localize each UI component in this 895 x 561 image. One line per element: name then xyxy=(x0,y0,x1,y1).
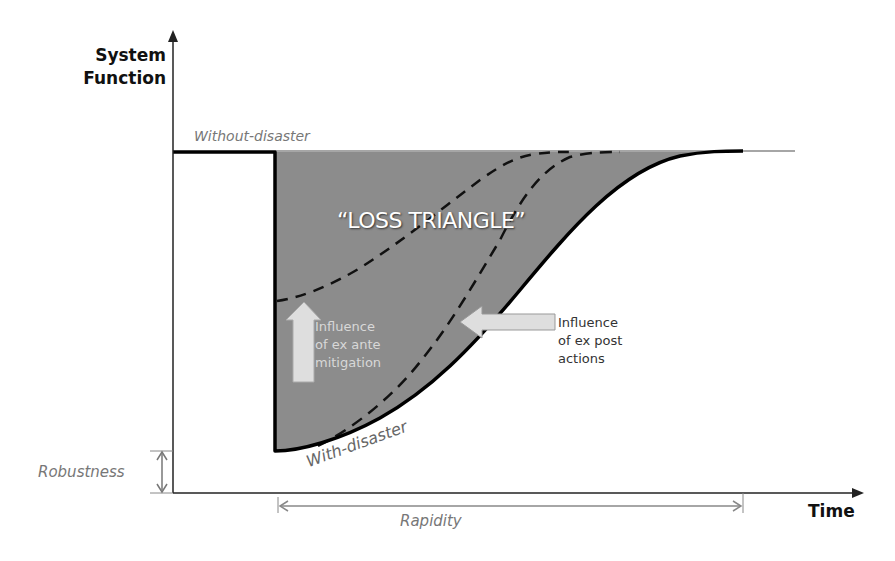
ex-ante-label: Influence of ex ante mitigation xyxy=(315,318,381,372)
ex-ante-label-line1: Influence xyxy=(315,318,381,336)
ex-post-label-line2: of ex post xyxy=(558,332,622,350)
robustness-label: Robustness xyxy=(38,463,125,481)
rapidity-label: Rapidity xyxy=(400,512,462,530)
y-axis-title-line1: System xyxy=(62,44,166,67)
y-axis-title-line2: Function xyxy=(62,67,166,90)
ex-ante-label-line2: of ex ante xyxy=(315,336,381,354)
ex-ante-label-line3: mitigation xyxy=(315,354,381,372)
ex-post-label: Influence of ex post actions xyxy=(558,314,622,368)
ex-post-label-line3: actions xyxy=(558,350,622,368)
loss-triangle-label: “LOSS TRIANGLE” xyxy=(337,208,525,233)
without-disaster-label: Without-disaster xyxy=(194,128,310,144)
x-axis-title: Time xyxy=(808,500,855,523)
x-axis-arrowhead xyxy=(852,488,864,498)
ex-post-label-line1: Influence xyxy=(558,314,622,332)
y-axis-arrowhead xyxy=(168,30,178,42)
y-axis-title: System Function xyxy=(62,44,166,90)
